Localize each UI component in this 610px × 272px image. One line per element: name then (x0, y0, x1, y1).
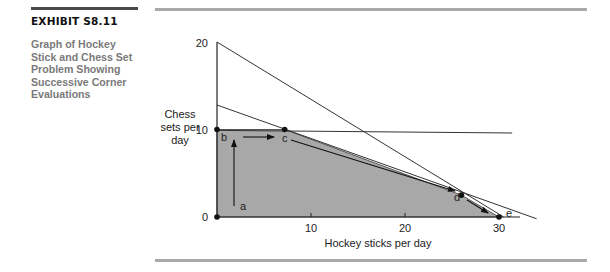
point-label-c: c (282, 132, 288, 144)
x-tick-label: 10 (305, 222, 317, 234)
x-tick-label: 30 (493, 222, 505, 234)
y-axis-title: sets per (160, 121, 199, 133)
point-label-a: a (240, 200, 247, 212)
point-label-e: e (506, 207, 512, 219)
corner-point-a (214, 214, 220, 220)
y-axis-title: Chess (164, 108, 196, 120)
corner-point-e (496, 214, 502, 220)
y-tick-label: 20 (196, 37, 208, 49)
x-axis-title: Hockey sticks per day (325, 237, 432, 249)
chart: 20 10 0 10 20 30 Chess sets per day Hock… (0, 0, 610, 272)
x-tick-label: 20 (399, 222, 411, 234)
y-axis-title: day (171, 134, 189, 146)
y-tick-label: 0 (202, 211, 208, 223)
corner-point-b (214, 127, 220, 133)
point-label-d: d (454, 191, 460, 203)
point-label-b: b (221, 131, 227, 143)
feasible-region (217, 130, 499, 218)
feasible-region-polygon (217, 130, 499, 218)
